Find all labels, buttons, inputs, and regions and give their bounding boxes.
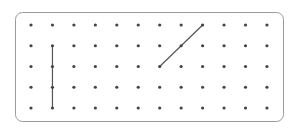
grid-dot bbox=[158, 44, 161, 47]
grid-dot bbox=[115, 23, 118, 26]
grid-dot bbox=[265, 86, 268, 89]
grid-dot bbox=[201, 65, 204, 68]
grid-dot bbox=[180, 106, 183, 109]
grid-dot bbox=[94, 65, 97, 68]
grid-dot bbox=[137, 86, 140, 89]
grid-dot bbox=[94, 44, 97, 47]
grid-dot bbox=[94, 23, 97, 26]
grid-dot bbox=[222, 65, 225, 68]
grid-dot bbox=[29, 23, 32, 26]
grid-dot bbox=[180, 44, 183, 47]
grid-dot bbox=[29, 44, 32, 47]
dot-grid-board bbox=[0, 0, 299, 132]
grid-dot bbox=[244, 106, 247, 109]
grid-dot bbox=[201, 44, 204, 47]
grid-dot bbox=[265, 23, 268, 26]
grid-dot bbox=[244, 86, 247, 89]
grid-dot bbox=[29, 65, 32, 68]
grid-dot bbox=[180, 86, 183, 89]
grid-dot bbox=[51, 86, 54, 89]
grid-dot bbox=[72, 44, 75, 47]
grid-dot bbox=[51, 23, 54, 26]
grid-dot bbox=[137, 106, 140, 109]
board-frame bbox=[16, 13, 284, 122]
grid-dot bbox=[137, 65, 140, 68]
grid-dot bbox=[265, 106, 268, 109]
grid-dot bbox=[115, 65, 118, 68]
grid-dot bbox=[201, 23, 204, 26]
grid-dot bbox=[201, 106, 204, 109]
grid-dot bbox=[222, 23, 225, 26]
grid-dot bbox=[29, 106, 32, 109]
grid-dot bbox=[115, 44, 118, 47]
grid-dot bbox=[137, 44, 140, 47]
grid-dot bbox=[244, 65, 247, 68]
grid-dot bbox=[244, 23, 247, 26]
grid-dot bbox=[29, 86, 32, 89]
grid-dot bbox=[94, 86, 97, 89]
grid-dot bbox=[51, 44, 54, 47]
dots-layer bbox=[29, 23, 268, 109]
grid-dot bbox=[265, 65, 268, 68]
grid-dot bbox=[72, 86, 75, 89]
grid-dot bbox=[222, 44, 225, 47]
grid-dot bbox=[158, 86, 161, 89]
grid-dot bbox=[222, 106, 225, 109]
grid-dot bbox=[158, 23, 161, 26]
grid-dot bbox=[265, 44, 268, 47]
grid-dot bbox=[201, 86, 204, 89]
grid-dot bbox=[222, 86, 225, 89]
grid-dot bbox=[72, 106, 75, 109]
grid-dot bbox=[94, 106, 97, 109]
grid-dot bbox=[244, 44, 247, 47]
grid-dot bbox=[115, 106, 118, 109]
grid-dot bbox=[158, 65, 161, 68]
grid-dot bbox=[115, 86, 118, 89]
grid-dot bbox=[72, 65, 75, 68]
grid-dot bbox=[180, 23, 183, 26]
grid-dot bbox=[72, 23, 75, 26]
grid-dot bbox=[158, 106, 161, 109]
grid-dot bbox=[180, 65, 183, 68]
grid-dot bbox=[137, 23, 140, 26]
grid-dot bbox=[51, 106, 54, 109]
grid-dot bbox=[51, 65, 54, 68]
